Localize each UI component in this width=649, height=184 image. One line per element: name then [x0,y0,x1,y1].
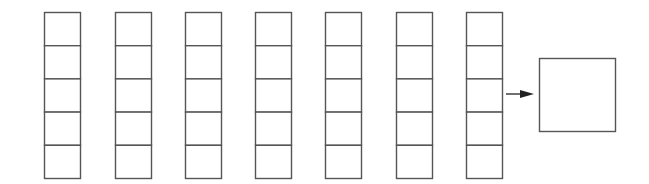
cell [467,112,503,145]
cell [256,112,292,145]
cell [397,46,433,79]
cell [45,112,81,145]
cell [467,79,503,112]
cell [397,13,433,46]
cell [256,79,292,112]
cell [186,112,222,145]
cell [186,145,222,178]
cell [326,112,362,145]
cell [256,13,292,46]
cell-stacks [45,13,503,179]
cell-stack-7 [467,13,503,179]
cell-stack-1 [45,13,81,179]
cell [45,46,81,79]
cell [116,46,152,79]
cell [326,79,362,112]
cell [467,46,503,79]
cell [467,13,503,46]
cell [186,79,222,112]
cell [45,145,81,178]
cell [116,79,152,112]
cell-stack-2 [116,13,152,179]
cell [397,145,433,178]
cell [116,145,152,178]
cell [186,13,222,46]
cell [45,79,81,112]
cell [116,112,152,145]
cell [467,145,503,178]
cell-stack-5 [326,13,362,179]
cell [186,46,222,79]
cell [397,79,433,112]
cell-stack-6 [397,13,433,179]
cell-stack-4 [256,13,292,179]
cell [326,13,362,46]
cell [326,46,362,79]
output-box [540,59,616,132]
arrow-icon [506,90,534,98]
cell [256,46,292,79]
cell [116,13,152,46]
cell-stack-3 [186,13,222,179]
cell [256,145,292,178]
diagram-canvas [0,0,649,184]
cell [326,145,362,178]
cell [45,13,81,46]
cell [397,112,433,145]
